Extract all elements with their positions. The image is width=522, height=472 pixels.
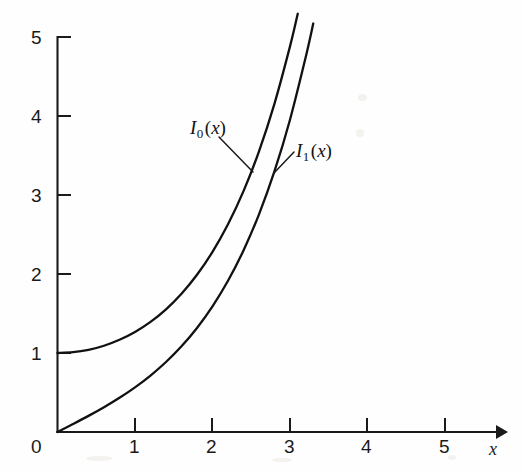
x-axis-arrow-icon (496, 425, 508, 439)
series-label-i1-argument: (x) (310, 140, 332, 161)
y-tick-label-5: 5 (31, 28, 42, 47)
origin-tick-label: 0 (31, 437, 42, 456)
x-axis-label: x (489, 440, 497, 458)
series-label-i0: I0(x) (190, 118, 226, 140)
series-label-i1: I1(x) (296, 141, 332, 163)
series-label-i0-subscript: 0 (196, 126, 204, 141)
x-tick-label-1: 1 (129, 437, 140, 456)
x-tick-label-5: 5 (439, 437, 450, 456)
y-tick-label-4: 4 (31, 107, 42, 126)
curve-i0 (58, 14, 298, 353)
x-tick-label-4: 4 (361, 437, 372, 456)
curve-i1 (58, 24, 314, 432)
series-label-i0-argument: (x) (204, 117, 226, 138)
x-tick-label-3: 3 (284, 437, 295, 456)
x-tick-label-2: 2 (206, 437, 217, 456)
figure-container: 5 4 3 2 1 0 1 2 3 4 5 x I0(x) I1(x) (0, 0, 522, 472)
series-label-i1-subscript: 1 (302, 149, 310, 164)
y-tick-label-3: 3 (31, 186, 42, 205)
bessel-function-plot (0, 0, 522, 472)
leader-line-i0 (219, 137, 253, 172)
y-tick-label-2: 2 (31, 265, 42, 284)
y-tick-label-1: 1 (31, 344, 42, 363)
